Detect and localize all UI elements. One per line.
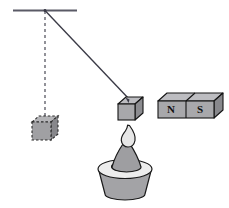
swung-block-cube bbox=[118, 97, 143, 120]
ghost-block-front-face bbox=[32, 122, 51, 140]
magnet-south-pole-label: S bbox=[197, 103, 203, 115]
pivot-point bbox=[44, 9, 47, 12]
physics-diagram-figure: N S bbox=[0, 0, 229, 208]
diagram-canvas: N S bbox=[0, 0, 229, 208]
dashed-rest-position-block bbox=[32, 116, 58, 140]
swung-block-front-face bbox=[118, 104, 135, 120]
bar-magnet: N S bbox=[158, 93, 223, 118]
magnet-north-pole-label: N bbox=[167, 103, 175, 115]
